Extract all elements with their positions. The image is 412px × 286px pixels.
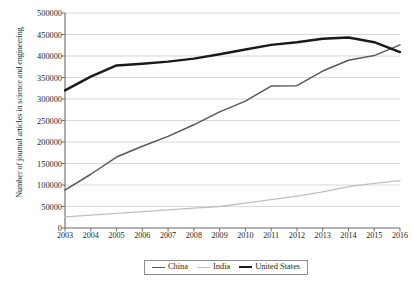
legend-swatch-icon — [152, 267, 165, 268]
legend-item-india[interactable]: India — [197, 263, 230, 271]
plot-area — [0, 0, 412, 286]
legend-label: China — [168, 263, 188, 271]
chart-legend: ChinaIndiaUnited States — [144, 260, 308, 275]
legend-item-united-states[interactable]: United States — [239, 263, 300, 271]
series-line-india — [65, 181, 400, 217]
legend-swatch-icon — [239, 266, 252, 268]
series-line-united-states — [65, 38, 400, 91]
legend-swatch-icon — [197, 267, 210, 268]
legend-label: India — [213, 263, 230, 271]
legend-label: United States — [255, 263, 300, 271]
legend-item-china[interactable]: China — [152, 263, 188, 271]
line-chart: Number of journal articles in science an… — [0, 0, 412, 286]
